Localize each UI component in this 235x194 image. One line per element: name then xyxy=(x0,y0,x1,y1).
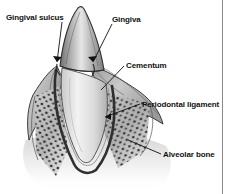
label-gingiva: Gingiva xyxy=(112,15,141,24)
tooth-illustration xyxy=(0,0,235,194)
tooth-crown xyxy=(60,7,104,72)
label-periodontal-ligament: Periodontal ligament xyxy=(142,100,219,109)
page-right-rule xyxy=(222,0,223,194)
label-cementum: Cementum xyxy=(126,61,167,70)
label-gingival-sulcus: Gingival sulcus xyxy=(6,13,64,22)
label-alveolar-bone: Alveolar bone xyxy=(163,150,215,159)
figure-canvas: Gingival sulcus Gingiva Cementum Periodo… xyxy=(0,0,235,194)
